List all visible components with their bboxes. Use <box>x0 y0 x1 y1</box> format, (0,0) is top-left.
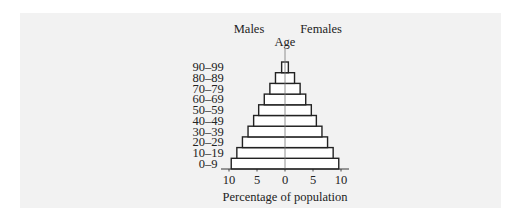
x-axis-title: Percentage of population <box>223 190 349 204</box>
x-tick-label: 5 <box>310 173 316 187</box>
population-pyramid-chart: Males Females Age 0–910–1920–2930–3940–4… <box>0 0 515 218</box>
x-tick-label: 5 <box>254 173 260 187</box>
x-tick-label: 10 <box>335 173 348 187</box>
x-tick-label: 0 <box>282 173 288 187</box>
males-label: Males <box>234 22 265 36</box>
x-axis-ticks: 1050510 <box>223 169 348 187</box>
age-axis-label: Age <box>275 35 296 49</box>
females-label: Females <box>300 22 342 36</box>
age-label: 90–99 <box>192 60 223 74</box>
x-tick-label: 10 <box>223 173 236 187</box>
age-category-labels: 0–910–1920–2930–3940–4950–5960–6970–7980… <box>192 60 223 170</box>
